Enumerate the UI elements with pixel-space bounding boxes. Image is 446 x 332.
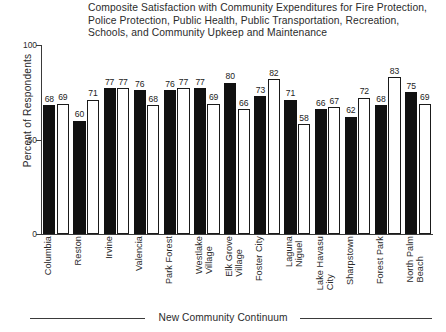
bar-group: 7677: [162, 45, 192, 234]
bar-group: 7158: [282, 45, 312, 234]
x-tick-label: Park Forest: [165, 236, 175, 284]
bar-light: [147, 105, 159, 234]
bar-value-label: 69: [416, 92, 433, 102]
bar-light: [358, 98, 370, 234]
bar-value-label: 69: [205, 92, 222, 102]
bar-group: 7382: [252, 45, 282, 234]
x-tick-label: Irvine: [105, 236, 115, 259]
bar-value-label: 71: [282, 88, 299, 98]
bar-light: [238, 109, 250, 234]
bar-value-label: 62: [342, 105, 359, 115]
x-tick-label: North Palm Beach: [406, 236, 425, 282]
bar-value-label: 71: [84, 88, 101, 98]
x-tick-label: Sharpstown: [346, 236, 356, 285]
bar-value-label: 58: [295, 113, 312, 123]
x-tick-label: Elk Grove Village: [225, 236, 244, 277]
bar-light: [207, 104, 219, 234]
bar-dark: [134, 90, 146, 234]
bar-group: 6869: [41, 45, 71, 234]
bar-value-label: 60: [71, 109, 88, 119]
x-tick-label: Columbia: [44, 236, 54, 275]
bar-dark: [345, 117, 357, 234]
bar-group: 6667: [312, 45, 342, 234]
bar-light: [87, 100, 99, 234]
y-tick-label: 100: [23, 40, 37, 50]
bar-group: 7569: [403, 45, 433, 234]
bar-group: 6071: [71, 45, 101, 234]
bar-light: [117, 88, 129, 234]
bar-value-label: 66: [235, 98, 252, 108]
bar-light: [298, 124, 310, 234]
bar-value-label: 67: [326, 96, 343, 106]
bar-light: [419, 104, 431, 234]
bar-value-label: 73: [252, 85, 269, 95]
x-tick-label: Lake Havasu City: [316, 236, 335, 290]
bar-dark: [194, 88, 206, 234]
bar-dark: [73, 121, 85, 234]
bar-group: 7777: [101, 45, 131, 234]
bar-dark: [43, 105, 55, 234]
bar-dark: [375, 105, 387, 234]
bar-value-label: 75: [403, 81, 420, 91]
bar-value-label: 80: [222, 71, 239, 81]
bar-value-label: 69: [54, 92, 71, 102]
bar-value-label: 77: [115, 77, 132, 87]
bar-dark: [104, 88, 116, 234]
x-tick-label: Westlake Village: [195, 236, 214, 274]
bar-value-label: 83: [386, 66, 403, 76]
bar-value-label: 68: [372, 94, 389, 104]
bar-light: [388, 77, 400, 234]
x-axis-caption: New Community Continuum: [0, 312, 446, 323]
bar-value-label: 68: [145, 94, 162, 104]
bar-dark: [164, 90, 176, 234]
bar-light: [268, 79, 280, 234]
x-tick-label: Reston: [74, 236, 84, 265]
y-axis-ticks: 050100: [0, 0, 37, 332]
x-tick-label: Foster City: [255, 236, 265, 281]
bar-dark: [405, 92, 417, 234]
bar-group: 8066: [222, 45, 252, 234]
chart-title: Composite Satisfaction with Community Ex…: [88, 2, 428, 40]
chart-figure: Composite Satisfaction with Community Ex…: [0, 0, 446, 332]
bar-group: 7769: [192, 45, 222, 234]
bar-dark: [315, 109, 327, 234]
bar-value-label: 76: [131, 79, 148, 89]
bar-value-label: 77: [175, 77, 192, 87]
bar-value-label: 82: [265, 68, 282, 78]
plot-area: 6869607177777668767777698066738271586667…: [41, 45, 433, 234]
bar-group: 7668: [131, 45, 161, 234]
bar-light: [57, 104, 69, 234]
bar-group: 6883: [373, 45, 403, 234]
bar-light: [328, 107, 340, 234]
x-tick-label: Valencia: [135, 236, 145, 271]
bar-light: [177, 88, 189, 234]
bar-value-label: 77: [192, 77, 209, 87]
bar-group: 6272: [343, 45, 373, 234]
bar-dark: [254, 96, 266, 234]
bar-value-label: 72: [356, 86, 373, 96]
x-axis-labels: ColumbiaRestonIrvineValenciaPark ForestW…: [41, 236, 433, 308]
x-tick-label: Forest Park: [376, 236, 386, 284]
x-tick-label: Laguna Niguel: [285, 236, 304, 267]
